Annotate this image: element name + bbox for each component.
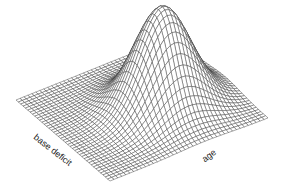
surface-plot — [0, 0, 286, 184]
